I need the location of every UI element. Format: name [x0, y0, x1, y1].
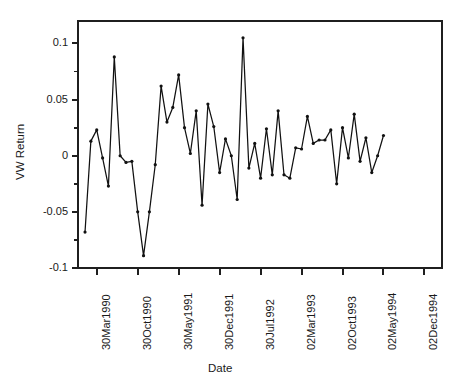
x-tick-label: 02Oct1993 — [347, 296, 358, 350]
data-point — [206, 102, 209, 105]
data-point — [364, 136, 367, 139]
x-tick-label: 30Oct1990 — [142, 296, 153, 350]
data-point — [288, 177, 291, 180]
data-point — [101, 156, 104, 159]
data-point — [241, 36, 244, 39]
data-point — [218, 171, 221, 174]
data-point — [89, 140, 92, 143]
data-point — [376, 154, 379, 157]
data-point — [318, 138, 321, 141]
data-point — [177, 73, 180, 76]
data-point — [142, 254, 145, 257]
data-point — [282, 173, 285, 176]
data-point — [341, 126, 344, 129]
x-tick-label: 02Dec1994 — [428, 294, 439, 350]
data-point — [224, 137, 227, 140]
data-point — [195, 109, 198, 112]
data-point — [183, 126, 186, 129]
data-point — [119, 154, 122, 157]
data-point — [148, 210, 151, 213]
data-point — [358, 160, 361, 163]
data-series-vw-return — [83, 36, 385, 257]
data-point — [329, 128, 332, 131]
data-point — [294, 146, 297, 149]
x-tick-label: 30May1991 — [183, 293, 194, 351]
series-polyline — [85, 38, 383, 256]
data-point — [306, 115, 309, 118]
y-tick-label: 0.05 — [8, 94, 68, 105]
data-point — [83, 230, 86, 233]
data-point — [136, 210, 139, 213]
x-tick-label: 30Dec1991 — [224, 294, 235, 350]
chart-figure: 0.10.050-0.05-0.1 30Mar199030Oct199030Ma… — [0, 0, 464, 388]
data-point — [347, 156, 350, 159]
data-point — [113, 55, 116, 58]
data-point — [271, 173, 274, 176]
data-point — [95, 128, 98, 131]
data-point — [353, 113, 356, 116]
axis-frame — [78, 21, 442, 268]
data-point — [335, 182, 338, 185]
data-point — [277, 109, 280, 112]
data-point — [236, 198, 239, 201]
x-tick-label: 02Mar1993 — [306, 294, 317, 350]
data-point — [370, 171, 373, 174]
data-point — [253, 142, 256, 145]
data-point — [300, 147, 303, 150]
data-point — [259, 177, 262, 180]
data-point — [230, 154, 233, 157]
data-point — [160, 85, 163, 88]
plot-frame — [78, 21, 442, 268]
data-point — [382, 134, 385, 137]
y-tick-label: -0.05 — [8, 206, 68, 217]
data-point — [107, 184, 110, 187]
data-point — [247, 166, 250, 169]
data-point — [312, 142, 315, 145]
y-tick-label: -0.1 — [8, 262, 68, 273]
data-point — [212, 125, 215, 128]
data-point — [130, 160, 133, 163]
data-point — [124, 161, 127, 164]
data-point — [154, 163, 157, 166]
data-point — [171, 106, 174, 109]
data-point — [323, 138, 326, 141]
data-point — [165, 120, 168, 123]
data-point — [189, 152, 192, 155]
data-point — [265, 127, 268, 130]
y-tick-label: 0.1 — [8, 37, 68, 48]
x-tick-label: 02May1994 — [387, 293, 398, 351]
x-tick-label: 30Jul1992 — [265, 299, 276, 350]
x-axis-title: Date — [208, 362, 232, 374]
data-point — [200, 204, 203, 207]
y-axis-title: VW Return — [14, 124, 26, 180]
x-tick-label: 30Mar1990 — [101, 294, 112, 350]
